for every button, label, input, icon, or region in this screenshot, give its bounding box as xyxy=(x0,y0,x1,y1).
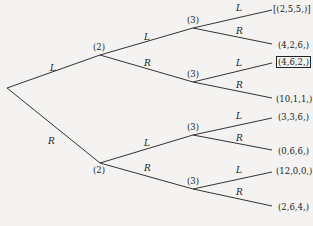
tree-edges xyxy=(0,0,313,226)
node-label-3-a: (3) xyxy=(187,15,199,25)
edge-label-n2a-left: L xyxy=(144,32,150,42)
leaf-payoff-3-highlighted: (4,6,2,) xyxy=(276,56,311,68)
edge-label-n3c-left: L xyxy=(236,111,242,121)
edge-label-n2a-right: R xyxy=(144,58,151,68)
edge-label-n3d-left: L xyxy=(236,165,242,175)
leaf-payoff-2: (4,2,6,) xyxy=(278,40,309,50)
edge-label-n2b-right: R xyxy=(144,163,151,173)
leaf-payoff-6: (0,6,6,) xyxy=(278,146,309,156)
edge-label-n3a-left: L xyxy=(236,3,242,13)
node-label-3-c: (3) xyxy=(187,122,199,132)
leaf-payoff-8: (2,6,4,) xyxy=(278,202,309,212)
edge-label-n3c-right: R xyxy=(236,133,243,143)
edge-label-root-right: R xyxy=(48,136,55,146)
edge-label-n3a-right: R xyxy=(236,26,243,36)
edge-label-root-left: L xyxy=(50,63,56,73)
edge-label-n3b-right: R xyxy=(236,80,243,90)
node-label-3-b: (3) xyxy=(187,69,199,79)
game-tree-diagram: L R (2) (2) L R L R (3) (3) (3) (3) L R … xyxy=(0,0,313,226)
leaf-payoff-7: (12,0,0,) xyxy=(276,166,312,176)
edge-label-n3d-right: R xyxy=(236,187,243,197)
leaf-payoff-4: (10,1,1,) xyxy=(276,94,312,104)
node-label-2-bottom: (2) xyxy=(93,165,105,175)
edge-label-n2b-left: L xyxy=(144,138,150,148)
leaf-payoff-5: (3,3,6,) xyxy=(278,112,309,122)
edge-label-n3b-left: L xyxy=(236,58,242,68)
leaf-payoff-1: [(2,5,5,)] xyxy=(273,4,311,14)
node-label-3-d: (3) xyxy=(187,176,199,186)
node-label-2-top: (2) xyxy=(93,42,105,52)
